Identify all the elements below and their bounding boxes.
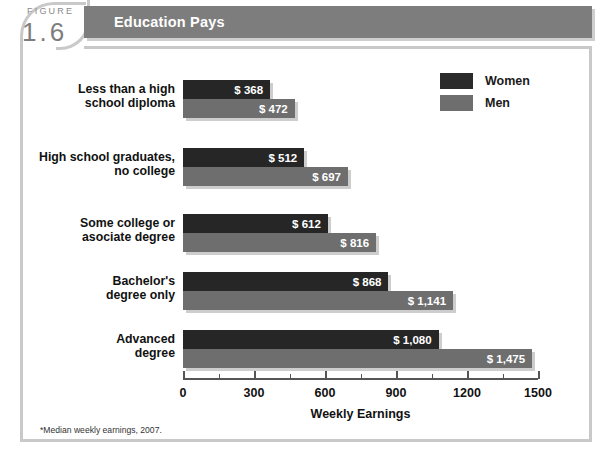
category-label-line: asociate degree [15, 230, 175, 244]
category-label-line: Some college or [15, 216, 175, 230]
category-label-line: Advanced [15, 332, 175, 346]
bar-value-label: $ 1,080 [393, 334, 431, 346]
bar-value-label: $ 697 [312, 171, 341, 183]
x-axis-tick-label: 600 [315, 386, 336, 400]
category-label-line: Bachelor's [15, 274, 175, 288]
category-label-line: degree [15, 346, 175, 360]
bar-value-label: $ 612 [292, 218, 321, 230]
x-axis-tick [467, 371, 469, 379]
bar-men: $ 1,141 [183, 291, 453, 310]
category-label-line: Less than a high [15, 82, 175, 96]
bar-value-label: $ 472 [259, 103, 288, 115]
bar-value-label: $ 868 [353, 276, 382, 288]
category-label: High school graduates,no college [15, 150, 175, 178]
bar-women: $ 1,080 [183, 330, 439, 349]
bar-value-label: $ 368 [234, 84, 263, 96]
x-axis-tick-minor [361, 374, 363, 379]
x-axis-tick-minor [219, 374, 221, 379]
category-label-line: High school graduates, [15, 150, 175, 164]
bar-women: $ 512 [183, 148, 304, 167]
bar-value-label: $ 512 [268, 152, 297, 164]
bar-men: $ 816 [183, 233, 376, 252]
chart-plot-area: Less than a highschool diploma$ 368$ 472… [0, 0, 604, 463]
category-label: Some college orasociate degree [15, 216, 175, 244]
x-axis-tick-label: 900 [386, 386, 407, 400]
x-axis-title: Weekly Earnings [183, 407, 538, 421]
figure-container: FIGURE 1.6 Education Pays Women Men Less… [0, 0, 604, 463]
x-axis-tick-label: 1500 [524, 386, 552, 400]
x-axis-tick-minor [503, 374, 505, 379]
x-axis-tick-minor [432, 374, 434, 379]
bar-value-label: $ 1,475 [487, 353, 525, 365]
x-axis-tick [396, 371, 398, 379]
x-axis-tick-label: 1200 [453, 386, 481, 400]
category-label: Advanceddegree [15, 332, 175, 360]
bar-value-label: $ 816 [340, 237, 369, 249]
x-axis-tick [183, 371, 185, 379]
category-label: Bachelor'sdegree only [15, 274, 175, 302]
x-axis-tick [538, 371, 540, 379]
bar-women: $ 368 [183, 80, 270, 99]
category-label-line: no college [15, 164, 175, 178]
x-axis-tick-minor [290, 374, 292, 379]
bar-men: $ 1,475 [183, 349, 532, 368]
x-axis-tick [254, 371, 256, 379]
bar-women: $ 868 [183, 272, 388, 291]
category-label-line: school diploma [15, 96, 175, 110]
x-axis-tick-label: 300 [244, 386, 265, 400]
bar-men: $ 697 [183, 167, 348, 186]
category-label: Less than a highschool diploma [15, 82, 175, 110]
bar-men: $ 472 [183, 99, 295, 118]
bar-value-label: $ 1,141 [408, 295, 446, 307]
x-axis-tick-label: 0 [180, 386, 187, 400]
bar-women: $ 612 [183, 214, 328, 233]
figure-footnote: *Median weekly earnings, 2007. [40, 425, 162, 435]
category-label-line: degree only [15, 288, 175, 302]
x-axis-tick [325, 371, 327, 379]
